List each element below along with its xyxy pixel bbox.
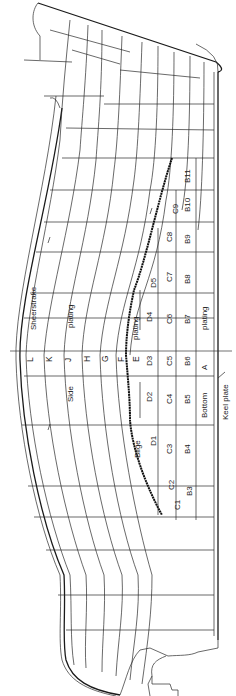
plate-D2: D2 [145, 391, 154, 402]
plate-D4: D4 [145, 311, 154, 322]
plate-B9: B9 [183, 234, 192, 244]
shell-expansion-diagram: L K J H G F E Sheerstrake plating Side p… [0, 0, 236, 696]
plate-C8: C8 [165, 231, 174, 242]
plate-D1: D1 [149, 435, 158, 446]
strake-label-K: K [44, 356, 54, 362]
plate-labels-B: B3 B4 B5 B6 B7 B8 B9 B10 B11 [183, 169, 194, 496]
plate-B6: B6 [183, 356, 192, 366]
plate-D3: D3 [145, 355, 154, 366]
plate-C1: C1 [173, 499, 182, 510]
strake-label-G: G [100, 355, 110, 362]
keel-strake-label-A: A [200, 364, 209, 370]
strake-label-E: E [131, 356, 141, 362]
strake-label-L: L [25, 357, 35, 362]
strake-seams [22, 20, 214, 684]
plate-C2: C2 [167, 479, 176, 490]
bottom-plating-label: plating [200, 306, 209, 330]
plate-B4: B4 [183, 444, 192, 454]
bilge-plating-label: plating [131, 316, 140, 340]
plate-C7: C7 [165, 271, 174, 282]
sheerstrake-label: Sheerstrake [29, 286, 38, 330]
plate-C5: C5 [165, 355, 174, 366]
strake-label-F: F [116, 357, 126, 362]
plate-labels-D: D1 D2 D3 D4 D5 [145, 277, 158, 446]
plate-C9: C9 [171, 203, 180, 214]
plate-B8: B8 [183, 274, 192, 284]
plate-B5: B5 [183, 394, 192, 404]
plate-B7: B7 [183, 314, 192, 324]
plate-C3: C3 [165, 443, 174, 454]
side-strake-labels: L K J H G F E [25, 355, 141, 362]
plate-C4: C4 [165, 393, 174, 404]
bottom-label: Bottom [200, 392, 209, 418]
keel-plate-label: Keel plate [221, 384, 230, 420]
plate-C6: C6 [165, 313, 174, 324]
plate-labels-C: C1 C2 C3 C4 C5 C6 C7 C8 C9 [165, 203, 182, 510]
side-label: Side [66, 385, 75, 402]
plate-D5: D5 [149, 277, 158, 288]
plate-B11: B11 [183, 169, 192, 183]
side-plating-label: plating [66, 304, 75, 328]
plate-B3: B3 [185, 486, 194, 496]
bilge-label: Bilge [133, 440, 142, 458]
keel-leader-line [218, 372, 225, 378]
plate-B10: B10 [183, 197, 192, 212]
strake-label-H: H [82, 356, 92, 362]
strake-label-J: J [63, 358, 73, 362]
